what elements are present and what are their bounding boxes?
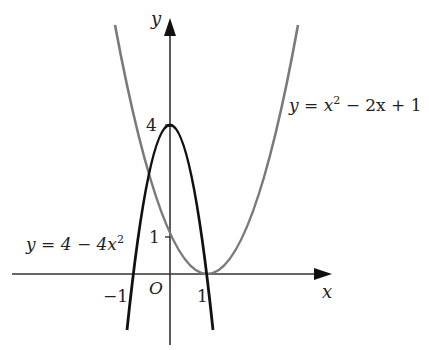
tick-label-y-1: 1 bbox=[149, 229, 160, 246]
graph-canvas bbox=[0, 0, 429, 350]
y-axis-label: y bbox=[151, 10, 161, 28]
y-axis-arrow-icon bbox=[164, 18, 176, 36]
equation-part: y = x bbox=[289, 95, 333, 115]
equation-part: y = 4 − 4x bbox=[26, 234, 117, 254]
tick-label-x-neg1: −1 bbox=[103, 288, 128, 305]
equation-part: − 2x + 1 bbox=[340, 95, 421, 115]
curve-parabola-1 bbox=[115, 25, 298, 274]
x-axis-arrow-icon bbox=[314, 268, 332, 280]
equation-label-parabola-2: y = 4 − 4x2 bbox=[26, 234, 124, 253]
equation-label-parabola-1: y = x2 − 2x + 1 bbox=[289, 95, 422, 114]
exponent: 2 bbox=[117, 233, 124, 246]
tick-label-y-4: 4 bbox=[146, 117, 157, 134]
tick-label-x-1: 1 bbox=[197, 288, 208, 305]
origin-label: O bbox=[149, 280, 163, 297]
x-axis-label: x bbox=[322, 283, 332, 301]
